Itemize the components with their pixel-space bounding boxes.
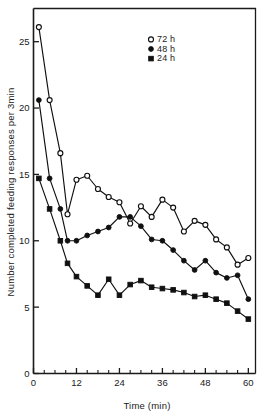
data-point	[149, 214, 154, 219]
y-axis-title: Number completed feeding responses per 3…	[5, 88, 16, 297]
data-point	[149, 237, 154, 242]
data-point	[192, 268, 197, 273]
data-point	[37, 176, 42, 181]
data-point	[246, 256, 251, 261]
data-point	[36, 98, 41, 103]
data-point	[47, 98, 52, 103]
data-point	[139, 224, 144, 229]
x-tick-label: 0	[31, 377, 36, 388]
x-axis-title: Time (min)	[123, 400, 170, 411]
data-point	[74, 274, 79, 279]
data-point	[138, 204, 143, 209]
data-point	[171, 288, 176, 293]
data-point	[96, 293, 101, 298]
data-point	[192, 218, 197, 223]
data-point	[47, 207, 52, 212]
x-tick-label: 60	[243, 377, 254, 388]
legend-marker-72-h	[149, 37, 154, 42]
data-point	[106, 277, 111, 282]
data-point	[117, 200, 122, 205]
data-point	[160, 197, 165, 202]
data-point	[224, 276, 229, 281]
data-point	[65, 238, 70, 243]
data-point	[95, 187, 100, 192]
data-point	[128, 221, 133, 226]
y-tick-label: 15	[19, 169, 30, 180]
data-point	[128, 282, 133, 287]
x-tick-label: 48	[200, 377, 211, 388]
legend-label-24-h: 24 h	[157, 53, 175, 63]
data-point	[58, 207, 63, 212]
data-point	[224, 245, 229, 250]
data-point	[85, 173, 90, 178]
legend-marker-48-h	[149, 47, 154, 52]
data-point	[96, 229, 101, 234]
data-point	[139, 278, 144, 283]
data-point	[225, 301, 230, 306]
data-point	[74, 238, 79, 243]
x-tick-label: 36	[157, 377, 168, 388]
data-point	[203, 258, 208, 263]
data-point	[235, 273, 240, 278]
data-point	[214, 237, 219, 242]
data-point	[106, 225, 111, 230]
data-point	[160, 286, 165, 291]
data-point	[214, 270, 219, 275]
data-point	[65, 261, 70, 266]
y-tick-label: 10	[19, 235, 30, 246]
data-point	[171, 248, 176, 253]
feeding-response-line-chart: 01224364860 0510152025 72 h48 h24 h Time…	[0, 0, 270, 416]
data-point	[192, 294, 197, 299]
data-point	[181, 258, 186, 263]
data-point	[160, 238, 165, 243]
data-point	[106, 194, 111, 199]
data-point	[235, 262, 240, 267]
data-point	[171, 205, 176, 210]
data-point	[235, 309, 240, 314]
data-point	[117, 214, 122, 219]
data-point	[246, 297, 251, 302]
legend-marker-24-h	[149, 56, 154, 61]
y-tick-label: 0	[24, 368, 29, 379]
legend-label-72-h: 72 h	[157, 34, 175, 44]
data-point	[203, 222, 208, 227]
data-point	[214, 297, 219, 302]
figure-container: 01224364860 0510152025 72 h48 h24 h Time…	[0, 0, 270, 416]
legend-label-48-h: 48 h	[157, 44, 175, 54]
data-point	[36, 25, 41, 30]
data-point	[58, 238, 63, 243]
data-point	[58, 151, 63, 156]
data-point	[246, 317, 251, 322]
data-point	[182, 290, 187, 295]
data-point	[117, 293, 122, 298]
chart-background	[0, 0, 270, 416]
data-point	[149, 285, 154, 290]
data-point	[181, 229, 186, 234]
data-point	[203, 293, 208, 298]
data-point	[65, 212, 70, 217]
x-tick-label: 24	[114, 377, 125, 388]
data-point	[47, 176, 52, 181]
y-tick-label: 20	[19, 102, 30, 113]
y-tick-label: 5	[24, 302, 29, 313]
data-point	[74, 177, 79, 182]
data-point	[85, 233, 90, 238]
chart-legend: 72 h48 h24 h	[149, 34, 176, 63]
x-tick-label: 12	[71, 377, 82, 388]
y-tick-label: 25	[19, 36, 30, 47]
data-point	[85, 284, 90, 289]
data-point	[128, 214, 133, 219]
